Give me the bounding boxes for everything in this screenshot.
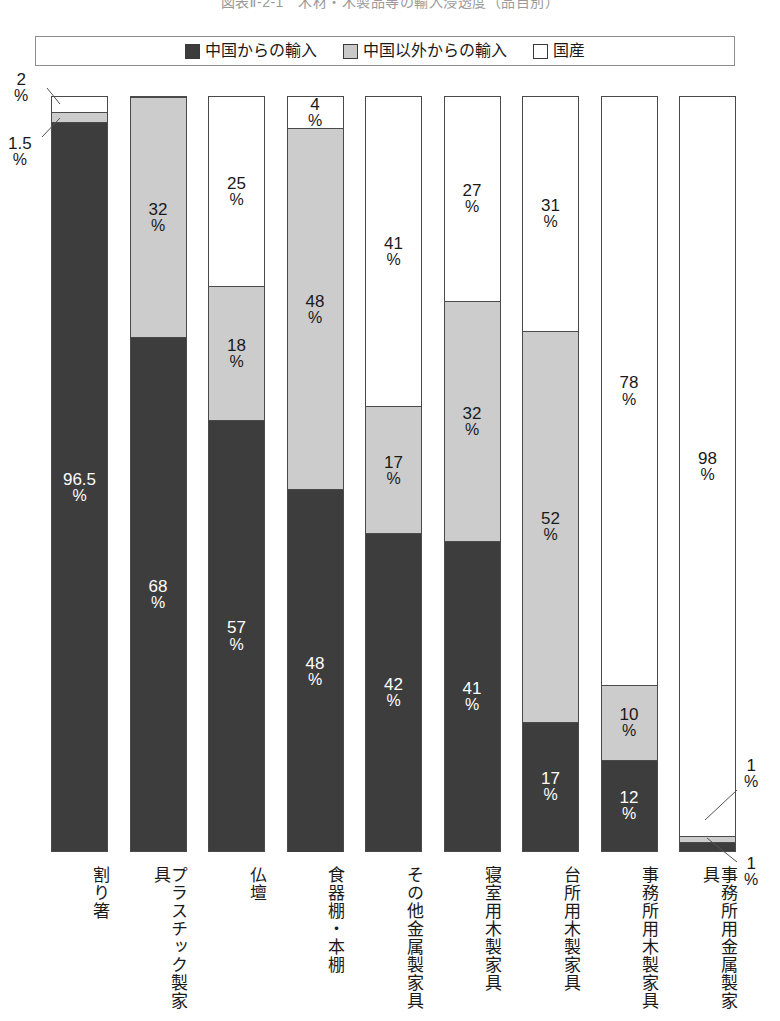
callout-bar9-china: 1 % [744, 856, 758, 887]
callout-bar9-other: 1 % [744, 758, 758, 789]
callout-value: 1.5 [8, 134, 32, 153]
chart-container: 図表Ⅱ-2-1 木材・木製品等の輸入浸透度（品目別） 中国からの輸入 中国以外か… [0, 0, 780, 1021]
callout-bar1-domestic: 2 % [14, 72, 28, 103]
callout-unit: % [14, 88, 28, 103]
callout-leader-lines [0, 0, 780, 1021]
callout-value: 2 [16, 70, 25, 89]
callout-value: 1 [746, 756, 755, 775]
callout-bar1-other: 1.5 % [8, 136, 32, 167]
callout-value: 1 [746, 854, 755, 873]
callout-unit: % [744, 872, 758, 887]
callout-unit: % [744, 774, 758, 789]
callout-unit: % [8, 152, 32, 167]
